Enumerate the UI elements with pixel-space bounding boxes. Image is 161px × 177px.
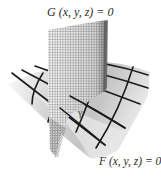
intersection-curve-label: γ bbox=[78, 108, 82, 118]
diagram-canvas bbox=[0, 0, 161, 177]
surface-intersection-diagram: G (x, y, z) = 0 γ F (x, y, z) = 0 bbox=[0, 0, 161, 177]
surface-g-label: G (x, y, z) = 0 bbox=[47, 6, 113, 18]
surface-f-label: F (x, y, z) = 0 bbox=[99, 156, 161, 168]
